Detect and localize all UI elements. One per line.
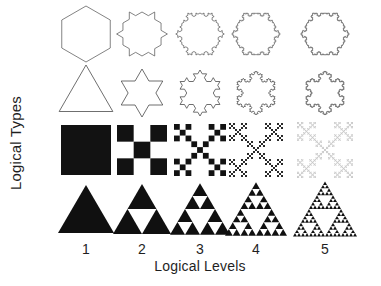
vicsek-cell [345, 170, 346, 171]
sierpinski-cell [241, 229, 249, 236]
vicsek-cell [247, 153, 249, 155]
sierpinski-cell [233, 229, 241, 236]
vicsek-cell [345, 166, 346, 167]
vicsek-cell [298, 173, 299, 174]
vicsek-cell [174, 124, 180, 130]
vicsek-cell [336, 163, 337, 164]
koch-hexagon-level-4 [232, 13, 281, 55]
vicsek-cell [325, 150, 326, 151]
sierpinski-cell [327, 188, 331, 191]
vicsek-cell [351, 134, 352, 135]
sierpinski-cell [325, 206, 329, 209]
vicsek-cell [302, 139, 303, 140]
vicsek-cell [309, 176, 310, 177]
vicsek-cell [275, 133, 277, 135]
vicsek-cell [316, 146, 317, 147]
vicsek-cell [316, 141, 317, 142]
vicsek-cell [277, 123, 279, 125]
vicsek-cell [303, 163, 304, 164]
vicsek-cell [341, 134, 342, 135]
sierpinski-cell [237, 209, 245, 216]
sierpinski-cell [329, 192, 333, 195]
vicsek-cell [332, 143, 333, 144]
vicsek-cell [332, 159, 333, 160]
sierpinski-cell [335, 216, 339, 219]
vicsek-cell [349, 124, 350, 125]
vicsek-cell [337, 125, 338, 126]
vicsek-cell [220, 170, 226, 176]
koch-triangle-level-2 [121, 69, 163, 117]
vicsek-cell [350, 161, 351, 162]
vicsek-cell [337, 175, 338, 176]
sierpinski-cell [325, 233, 329, 236]
vicsek-cell [300, 125, 301, 126]
vicsek-cell [298, 177, 299, 178]
sierpinski-cell [333, 206, 337, 209]
vicsek-cell [328, 146, 329, 147]
vicsek-cell [350, 125, 351, 126]
vicsek-cell [311, 161, 312, 162]
vicsek-cell [117, 158, 134, 175]
sierpinski-cell [343, 216, 347, 219]
vicsek-cell [315, 165, 316, 166]
vicsek-cell [298, 123, 299, 124]
vicsek-cell [347, 127, 348, 128]
vicsek-cell [336, 177, 337, 178]
sierpinski-cell [309, 219, 313, 222]
sierpinski-cell [272, 216, 280, 223]
vicsek-cell [233, 135, 235, 137]
vicsek-cell [309, 173, 310, 174]
vicsek-level-3 [174, 124, 226, 176]
sierpinski-cell [335, 230, 339, 233]
vicsek-cell [311, 134, 312, 135]
vicsek-cell [313, 125, 314, 126]
sierpinski-cell [321, 233, 325, 236]
vicsek-cell [334, 176, 335, 177]
vicsek-cell [330, 157, 331, 158]
vicsek-cell [333, 141, 334, 142]
vicsek-cell [301, 140, 302, 141]
vicsek-cell [311, 176, 312, 177]
vicsek-cell [341, 133, 342, 134]
vicsek-cell [174, 170, 180, 176]
vicsek-cell [237, 167, 239, 169]
vicsek-cell [334, 154, 335, 155]
vicsek-cell [309, 177, 310, 178]
vicsek-cell [299, 161, 300, 162]
vicsek-cell [310, 164, 311, 165]
vicsek-cell [243, 125, 245, 127]
vicsek-cell [339, 135, 340, 136]
vicsek-cell [335, 172, 336, 173]
vicsek-cell [317, 146, 318, 147]
vicsek-cell [303, 177, 304, 178]
vicsek-cell [315, 177, 316, 178]
sierpinski-cell [317, 199, 321, 202]
sierpinski-cell [185, 222, 200, 235]
vicsek-cell [307, 128, 308, 129]
vicsek-cell [342, 167, 343, 168]
vicsek-cell [297, 163, 298, 164]
vicsek-cell [298, 165, 299, 166]
column-label-2: 2 [130, 241, 154, 257]
vicsek-cell [305, 168, 306, 169]
vicsek-cell [324, 149, 325, 150]
vicsek-cell [315, 126, 316, 127]
vicsek-cell [341, 132, 342, 133]
vicsek-cell [298, 128, 299, 129]
vicsek-cell [332, 146, 333, 147]
vicsek-cell [341, 170, 342, 171]
vicsek-cell [312, 175, 313, 176]
vicsek-cell [303, 134, 304, 135]
vicsek-cell [338, 161, 339, 162]
vicsek-cell [314, 122, 315, 123]
koch-hexagon-level-5 [301, 13, 350, 55]
vicsek-cell [307, 170, 308, 171]
vicsek-cell [338, 123, 339, 124]
sierpinski-cell [313, 233, 317, 236]
vicsek-cell [318, 144, 319, 145]
vicsek-cell [269, 127, 271, 129]
vicsek-cell [303, 128, 304, 129]
vicsek-cell [340, 173, 341, 174]
vicsek-cell [334, 123, 335, 124]
vicsek-cell [336, 122, 337, 123]
